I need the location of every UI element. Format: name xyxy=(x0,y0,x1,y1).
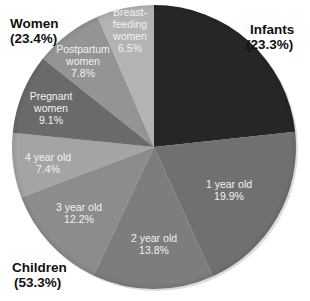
pie-chart: 1 year old19.9%2 year old13.8%3 year old… xyxy=(0,0,310,301)
group-label-infants: Infants (23.3%) xyxy=(246,22,298,52)
group-label-women: Women (23.4%) xyxy=(10,16,62,46)
group-label-children: Children (53.3%) xyxy=(12,260,71,290)
